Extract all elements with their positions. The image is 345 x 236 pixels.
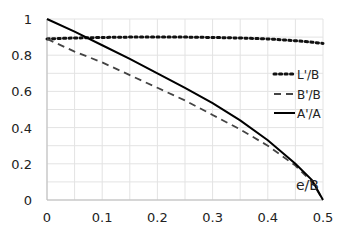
y-tick-label: 0.6 [11, 84, 32, 99]
gridlines [47, 19, 323, 200]
legend-label: L'/B [297, 68, 319, 82]
y-tick-label: 0.4 [11, 121, 32, 136]
y-tick-label: 1 [24, 12, 32, 27]
y-tick-label: 0.2 [11, 157, 32, 172]
legend-label: B'/B [297, 88, 321, 102]
x-tick-label: 0.4 [257, 210, 278, 225]
x-tick-label: 0.1 [92, 210, 113, 225]
y-tick-label: 0 [24, 193, 32, 208]
legend-label: A'/A [297, 107, 322, 121]
x-tick-label: 0.2 [147, 210, 168, 225]
x-tick-label: 0 [43, 210, 51, 225]
x-tick-label: 0.5 [313, 210, 334, 225]
y-tick-label: 0.8 [11, 48, 32, 63]
legend: L'/BB'/BA'/A [274, 68, 322, 121]
x-axis-label: e/B [296, 177, 319, 193]
line-chart: 00.10.20.30.40.500.20.40.60.81 L'/BB'/BA… [0, 0, 345, 236]
x-tick-label: 0.3 [202, 210, 223, 225]
